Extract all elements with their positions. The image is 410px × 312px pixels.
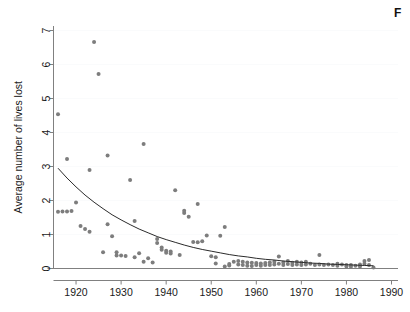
x-tick-label-1980: 1980 <box>335 286 359 298</box>
data-point <box>70 209 74 213</box>
data-point <box>272 262 276 266</box>
y-axis-title: Average number of lives lost <box>12 81 24 213</box>
data-point <box>259 264 263 268</box>
data-point <box>115 250 119 254</box>
data-point <box>196 202 200 206</box>
data-point <box>236 259 240 263</box>
data-point <box>106 154 110 158</box>
data-point <box>56 210 60 214</box>
data-point <box>295 262 299 266</box>
data-point <box>200 239 204 243</box>
axis-ticks: 0123456719201930194019501960197019801990 <box>40 27 404 297</box>
data-point <box>169 252 173 256</box>
data-point <box>286 262 290 266</box>
data-point <box>299 263 303 267</box>
x-tick-label-1930: 1930 <box>109 286 133 298</box>
data-point <box>83 227 87 231</box>
data-point <box>241 263 245 267</box>
data-point <box>142 142 146 146</box>
data-point <box>268 263 272 267</box>
y-tick-label-4: 4 <box>40 129 52 135</box>
data-point <box>281 263 285 267</box>
data-point <box>97 72 101 76</box>
data-point <box>308 262 312 266</box>
data-point <box>232 260 236 264</box>
data-point <box>79 224 83 228</box>
data-point <box>106 222 110 226</box>
data-point <box>214 261 218 265</box>
data-point <box>353 264 357 268</box>
data-point <box>191 240 195 244</box>
data-point <box>88 230 92 234</box>
data-point <box>160 248 164 252</box>
fit-curve-path <box>58 168 373 266</box>
data-point <box>88 168 92 172</box>
x-tick-label-1970: 1970 <box>290 286 314 298</box>
data-point <box>254 263 258 267</box>
data-point <box>74 201 78 205</box>
y-tick-label-5: 5 <box>40 95 52 101</box>
data-point <box>65 157 69 161</box>
x-tick-label-1920: 1920 <box>64 286 88 298</box>
data-point <box>182 209 186 213</box>
data-point <box>56 112 60 116</box>
data-point <box>137 251 141 255</box>
figure-container: 0123456719201930194019501960197019801990… <box>0 0 410 312</box>
data-point <box>205 234 209 238</box>
data-point <box>142 260 146 264</box>
data-point <box>124 254 128 258</box>
data-point <box>277 255 281 259</box>
y-tick-label-6: 6 <box>40 61 52 67</box>
x-tick-label-1960: 1960 <box>245 286 269 298</box>
data-point <box>290 263 294 267</box>
data-point <box>65 209 69 213</box>
data-point <box>209 254 213 258</box>
data-point <box>133 255 137 259</box>
figure-caption-fragment: F <box>394 5 410 21</box>
data-point <box>178 253 182 257</box>
y-tick-label-3: 3 <box>40 163 52 169</box>
data-point <box>173 188 177 192</box>
data-point <box>277 262 281 266</box>
data-point <box>110 234 114 238</box>
data-point <box>214 255 218 259</box>
data-point <box>263 263 267 267</box>
data-point <box>151 260 155 264</box>
data-point <box>155 241 159 245</box>
data-point <box>115 254 119 258</box>
data-point <box>119 254 123 258</box>
data-point <box>223 225 227 229</box>
y-tick-label-7: 7 <box>40 27 52 33</box>
data-point <box>317 253 321 257</box>
data-point <box>164 251 168 255</box>
data-point <box>92 40 96 44</box>
x-tick-label-1940: 1940 <box>154 286 178 298</box>
gridlines <box>54 31 399 235</box>
data-point <box>245 264 249 268</box>
y-tick-label-1: 1 <box>40 231 52 237</box>
data-point <box>367 258 371 262</box>
data-point <box>133 219 137 223</box>
data-point <box>227 263 231 267</box>
data-point <box>61 209 65 213</box>
data-point <box>196 240 200 244</box>
data-point <box>187 215 191 219</box>
data-point <box>146 256 150 260</box>
fit-curve <box>58 168 373 266</box>
data-point <box>250 264 254 268</box>
data-point <box>101 250 105 254</box>
data-points <box>56 40 375 269</box>
data-point <box>128 178 132 182</box>
x-tick-label-1990: 1990 <box>380 286 404 298</box>
y-tick-label-0: 0 <box>40 265 52 271</box>
y-tick-label-2: 2 <box>40 197 52 203</box>
data-point <box>223 264 227 268</box>
scatter-plot: 0123456719201930194019501960197019801990… <box>0 0 410 312</box>
x-tick-label-1950: 1950 <box>200 286 224 298</box>
axis-labels: Average number of lives lost <box>12 81 24 213</box>
data-point <box>218 234 222 238</box>
data-point <box>236 262 240 266</box>
